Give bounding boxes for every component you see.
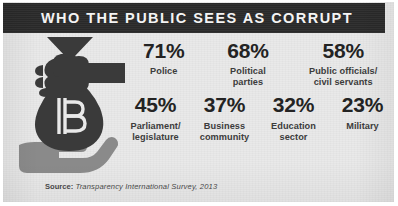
giving-hand-icon bbox=[35, 54, 125, 97]
stat-value: 68% bbox=[227, 40, 268, 62]
page-title: WHO THE PUBLIC SEES AS CORRUPT bbox=[35, 10, 353, 26]
stat-label: Public officials/civil servants bbox=[309, 66, 377, 88]
stat-military: 23% Military bbox=[328, 94, 394, 142]
stat-label: Educationsector bbox=[271, 121, 316, 143]
stat-label: Politicalparties bbox=[230, 66, 266, 88]
stat-political-parties: 68% Politicalparties bbox=[207, 40, 290, 88]
stat-public-officials: 58% Public officials/civil servants bbox=[289, 40, 394, 88]
stat-parliament: 45% Parliament/legislature bbox=[121, 94, 190, 142]
stats-row-1: 71% Police 68% Politicalparties 58% Publ… bbox=[121, 40, 394, 88]
stat-label: Parliament/legislature bbox=[130, 121, 180, 143]
stat-value: 23% bbox=[342, 94, 383, 116]
stat-label: Businesscommunity bbox=[200, 121, 249, 143]
stat-value: 45% bbox=[135, 94, 176, 116]
stat-education-sector: 32% Educationsector bbox=[259, 94, 328, 142]
source-label: Source: bbox=[45, 182, 73, 191]
stat-value: 32% bbox=[273, 94, 314, 116]
stat-label: Military bbox=[346, 121, 379, 132]
bribery-illustration bbox=[17, 32, 125, 180]
statistics-group: 71% Police 68% Politicalparties 58% Publ… bbox=[121, 40, 394, 143]
header-band: WHO THE PUBLIC SEES AS CORRUPT bbox=[3, 3, 385, 33]
infographic-panel: WHO THE PUBLIC SEES AS CORRUPT bbox=[3, 2, 394, 202]
stat-value: 71% bbox=[143, 40, 184, 62]
infographic-root: WHO THE PUBLIC SEES AS CORRUPT bbox=[0, 0, 398, 206]
source-line: Source: Transparency International Surve… bbox=[45, 182, 217, 191]
stat-police: 71% Police bbox=[121, 40, 207, 88]
stat-business-community: 37% Businesscommunity bbox=[190, 94, 259, 142]
stat-label: Police bbox=[150, 66, 177, 77]
source-text: Transparency International Survey, 2013 bbox=[75, 182, 217, 191]
stat-value: 58% bbox=[322, 40, 363, 62]
stats-row-2: 45% Parliament/legislature 37% Businessc… bbox=[121, 94, 394, 142]
stat-value: 37% bbox=[204, 94, 245, 116]
